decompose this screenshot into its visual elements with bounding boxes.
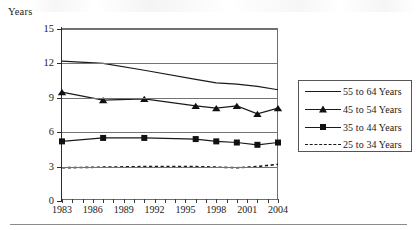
legend-item-2[interactable]: 35 to 44 Years <box>299 118 411 136</box>
x-axis-tick <box>268 199 269 203</box>
data-point-marker-square <box>234 140 240 146</box>
x-axis-tick <box>196 199 197 203</box>
x-axis-tick-label: 1989 <box>114 204 134 215</box>
x-axis-tick <box>113 199 114 203</box>
y-axis-tick <box>57 63 62 64</box>
x-axis-tick <box>144 199 145 203</box>
y-axis-tick-label: 9 <box>28 91 54 102</box>
x-axis-tick <box>62 199 63 203</box>
y-axis-tick <box>57 29 62 30</box>
y-axis-tick <box>57 167 62 168</box>
y-axis-tick-label: 6 <box>28 126 54 137</box>
x-axis-tick <box>175 199 176 203</box>
x-axis-tick <box>165 199 166 203</box>
gridline <box>62 63 277 64</box>
x-axis-tick <box>257 199 258 203</box>
legend-key-line <box>303 82 343 100</box>
y-axis-tick <box>57 98 62 99</box>
gridline <box>62 167 277 168</box>
y-axis-tick <box>57 132 62 133</box>
x-axis-tick-label: 1995 <box>175 204 195 215</box>
x-axis-tick-label: 2001 <box>237 204 257 215</box>
series-lines <box>62 29 278 201</box>
gridline <box>62 132 277 133</box>
legend-item-1[interactable]: 45 to 54 Years <box>299 100 411 118</box>
y-axis-tick-label: 12 <box>28 57 54 68</box>
data-point-marker-square <box>100 135 106 141</box>
x-axis-tick <box>83 199 84 203</box>
x-axis-tick <box>206 199 207 203</box>
series-line-2 <box>62 138 278 145</box>
page-rule <box>10 224 407 225</box>
legend-item-0[interactable]: 55 to 64 Years <box>299 82 411 100</box>
x-axis-tick <box>247 199 248 203</box>
legend-key-square-icon <box>303 118 343 136</box>
x-axis-tick <box>155 199 156 203</box>
y-axis-tick-label: 15 <box>28 23 54 34</box>
x-axis-tick <box>216 199 217 203</box>
legend-label-0: 55 to 64 Years <box>343 86 402 97</box>
chart-legend: 55 to 64 Years 45 to 54 Years 35 to 44 Y… <box>298 80 412 152</box>
data-point-marker-square <box>141 135 147 141</box>
x-axis-tick-label: 2004 <box>268 204 288 215</box>
x-axis-tick-label: 1983 <box>52 204 72 215</box>
x-axis-tick <box>134 199 135 203</box>
data-point-marker-triangle <box>274 105 282 111</box>
x-axis-labels: 19831986198919921995199820012004 <box>62 204 278 218</box>
data-point-marker-triangle <box>253 111 261 117</box>
x-axis-tick <box>72 199 73 203</box>
x-axis-tick <box>227 199 228 203</box>
gridline <box>62 29 277 30</box>
series-line-0 <box>62 61 278 90</box>
x-axis-tick <box>103 199 104 203</box>
legend-label-2: 35 to 44 Years <box>343 122 402 133</box>
legend-key-dashed <box>303 135 343 153</box>
x-axis-tick <box>93 199 94 203</box>
gridline <box>62 98 277 99</box>
x-axis-tick <box>185 199 186 203</box>
scan-artifact <box>0 0 417 12</box>
plot-area <box>62 28 278 200</box>
x-axis-tick-label: 1986 <box>83 204 103 215</box>
legend-label-3: 25 to 34 Years <box>343 139 402 150</box>
x-axis-tick-label: 1992 <box>145 204 165 215</box>
y-axis-tick-label: 0 <box>28 195 54 206</box>
legend-key-triangle-icon <box>303 100 343 118</box>
x-axis-tick-label: 1998 <box>206 204 226 215</box>
data-point-marker-square <box>193 136 199 142</box>
x-axis-tick <box>278 199 279 203</box>
data-point-marker-square <box>254 142 260 148</box>
x-axis-tick <box>124 199 125 203</box>
legend-label-1: 45 to 54 Years <box>343 104 402 115</box>
series-line-1 <box>62 92 278 114</box>
data-point-marker-square <box>213 138 219 144</box>
legend-item-3[interactable]: 25 to 34 Years <box>299 135 411 153</box>
x-axis-tick <box>237 199 238 203</box>
data-point-marker-square <box>275 140 281 146</box>
data-point-marker-square <box>59 138 65 144</box>
y-axis-tick-label: 3 <box>28 160 54 171</box>
chart-figure: Years 03691215 1983198619891992199519982… <box>0 0 417 230</box>
y-axis-title: Years <box>8 6 32 17</box>
